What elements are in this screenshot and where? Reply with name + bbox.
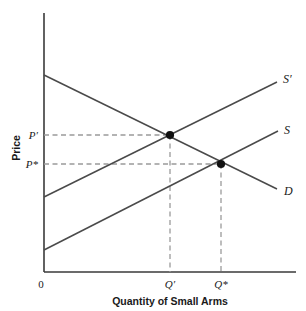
chart-figure: S′ S D P′ P* Q′ Q* 0 Price Quantity of S… [0, 0, 306, 311]
curves-group [44, 75, 278, 250]
guide-lines-group [44, 135, 221, 272]
origin-label: 0 [38, 278, 44, 290]
demand-curve [44, 75, 277, 189]
quantity-new-tick-label: Q′ [165, 278, 176, 290]
demand-curve-label: D [283, 184, 293, 198]
supply-curve-label: S [284, 123, 290, 137]
price-new-tick-label: P′ [28, 129, 39, 141]
x-axis-title: Quantity of Small Arms [112, 295, 228, 307]
supply-shifted-curve [44, 82, 277, 197]
quantity-star-tick-label: Q* [214, 278, 228, 290]
equilibrium-point-original [217, 160, 225, 168]
equilibrium-point-new [166, 131, 174, 139]
price-star-tick-label: P* [25, 158, 39, 170]
y-axis-title: Price [10, 135, 22, 161]
supply-curve [44, 131, 278, 250]
supply-shifted-curve-label: S′ [283, 72, 292, 86]
supply-demand-chart: S′ S D P′ P* Q′ Q* 0 Price Quantity of S… [0, 0, 306, 311]
